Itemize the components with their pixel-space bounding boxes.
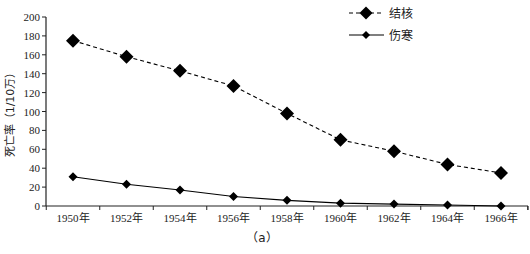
data-point-marker [122, 180, 131, 189]
y-axis-label: 死亡率（1/10万） [3, 67, 17, 158]
x-axis: 1950年1952年1954年1956年1958年1960年1962年1964年… [46, 206, 528, 224]
x-tick-label: 1962年 [378, 211, 411, 224]
y-axis: 020406080100120140160180200 [24, 11, 47, 212]
y-tick-label: 0 [35, 200, 41, 212]
y-tick-label: 100 [24, 106, 41, 118]
x-tick-label: 1952年 [110, 211, 143, 224]
y-tick-label: 180 [24, 30, 41, 42]
y-tick-label: 140 [24, 68, 41, 80]
data-point-marker [441, 157, 455, 171]
data-point-marker [283, 196, 292, 205]
y-tick-label: 20 [29, 181, 41, 193]
legend-item: 结核 [349, 7, 413, 21]
x-tick-label: 1958年 [271, 211, 304, 224]
line-chart: 020406080100120140160180200 1950年1952年19… [0, 0, 530, 254]
data-point-marker [497, 202, 506, 211]
y-tick-label: 80 [29, 124, 41, 136]
data-point-marker [176, 185, 185, 194]
figure-caption: （a） [246, 231, 277, 245]
data-point-marker [443, 201, 452, 210]
y-tick-label: 40 [29, 162, 41, 174]
x-tick-label: 1954年 [164, 211, 197, 224]
x-tick-label: 1956年 [217, 211, 250, 224]
x-tick-label: 1966年 [485, 211, 518, 224]
legend-label: 结核 [389, 7, 413, 21]
legend-label: 伤寒 [389, 28, 413, 43]
series-tuberculosis [66, 34, 508, 180]
data-point-marker [387, 144, 401, 158]
data-point-marker [280, 106, 294, 120]
data-point-marker [173, 64, 187, 78]
legend-item: 伤寒 [349, 28, 413, 43]
x-tick-label: 1950年 [57, 211, 90, 224]
data-point-marker [120, 50, 134, 64]
data-point-marker [66, 34, 80, 48]
y-tick-label: 60 [29, 143, 41, 155]
y-tick-label: 120 [24, 87, 41, 99]
series-typhoid [69, 172, 506, 210]
y-tick-label: 200 [24, 11, 41, 23]
data-point-marker [390, 200, 399, 209]
data-point-marker [227, 79, 241, 93]
data-point-marker [229, 192, 238, 201]
legend-marker-icon [360, 7, 373, 20]
x-tick-label: 1964年 [431, 211, 464, 224]
y-tick-label: 160 [24, 49, 41, 61]
data-point-marker [69, 172, 78, 181]
legend: 结核伤寒 [349, 7, 413, 43]
x-tick-label: 1960年 [324, 211, 357, 224]
series-layer [66, 34, 508, 211]
legend-marker-icon [362, 31, 370, 39]
data-point-marker [494, 166, 508, 180]
data-point-marker [334, 133, 348, 147]
